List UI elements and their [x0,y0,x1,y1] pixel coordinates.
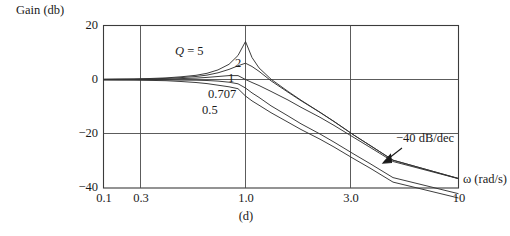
curve-label-q-2: 2 [235,57,241,70]
y-tick-0: 0 [62,73,98,86]
curve-label-q-1: 1 [228,72,234,85]
x-tick-1-0: 1.0 [227,192,265,205]
x-axis-title: ω (rad/s) [463,173,507,186]
q-5-value: = 5 [184,44,204,58]
curve-label-q-05: 0.5 [202,104,218,117]
curve-label-q-5: Q = 5 [175,45,204,58]
x-tick-3-0: 3.0 [332,192,370,205]
y-axis-title: Gain (db) [16,4,64,17]
y-tick-20: 20 [62,19,98,32]
curve-label-q-0707: 0.707 [208,88,236,101]
slope-annotation-text: −40 dB/dec [396,132,454,145]
x-tick-0-3: 0.3 [122,192,160,205]
figure-caption: (d) [211,210,281,223]
bode-magnitude-figure: Gain (db) 20 0 −20 −40 0.1 0.3 1.0 3.0 1… [0,0,510,236]
y-tick-minus-20: −20 [55,127,98,140]
q-symbol: Q [175,44,184,58]
x-tick-10: 10 [440,192,478,205]
x-tick-0-1: 0.1 [85,192,123,205]
curve-set [104,42,459,199]
curve-q-5 [104,42,459,179]
